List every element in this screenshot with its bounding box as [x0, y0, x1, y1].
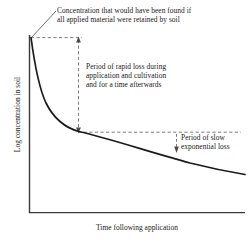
chart-plot-area — [0, 0, 251, 241]
chart-figure: Concentration that would have been found… — [0, 0, 251, 241]
annotation-slow-exponential-loss: Period of slow exponential loss — [181, 133, 251, 151]
decay-curve — [31, 38, 245, 175]
x-axis-label: Time following application — [29, 223, 245, 232]
leader-line-initial-concentration — [32, 11, 57, 38]
slow-loss-arrowhead — [174, 147, 179, 153]
y-axis-label: Log concentration in soil — [13, 55, 22, 175]
annotation-initial-concentration: Concentration that would have been found… — [57, 6, 249, 24]
annotation-rapid-loss: Period of rapid loss during application … — [86, 62, 201, 90]
